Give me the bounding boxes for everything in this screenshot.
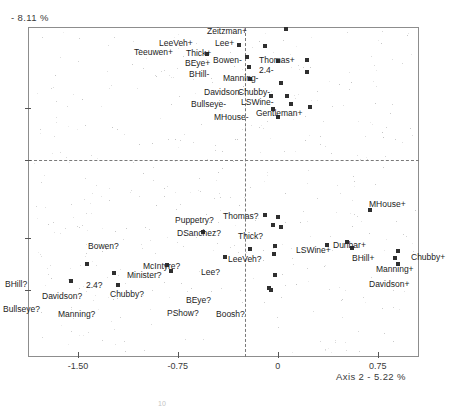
data-point-label: Davidson+ [369,280,409,289]
data-point-label: Puppetry? [175,216,214,225]
data-point-label: LSWine- [241,98,274,107]
data-point-label: 2.4? [86,281,103,290]
data-point-label: LeeVeh? [228,255,262,264]
data-point-label: Minister? [127,271,161,280]
data-point-label: Manning? [58,310,95,319]
data-point-label: Boosh? [216,310,245,319]
data-point-label: Lee+ [215,39,234,48]
data-point-label: Bowen? [88,242,119,251]
data-point-label: PShow? [167,309,199,318]
data-point-label: Manning- [223,74,258,83]
data-labels-layer: Zeitzman+LeeVeh+Lee+Teeuwen+Thick+BEye+T… [0,0,471,416]
data-point-label: Bowen- [213,56,242,65]
data-point-label: Thomas? [223,212,258,221]
data-point-label: Lee? [201,268,220,277]
data-point-label: Thick+ [186,49,211,58]
data-point-label: DSanchez? [177,229,221,238]
data-point-label: Manning+ [376,265,414,274]
data-point-label: Davidson? [42,292,82,301]
data-point-label: Bullseye? [3,305,40,314]
data-point-label: Teeuwen+ [134,48,173,57]
data-point-label: BHill+ [352,254,374,263]
scatter-plot-figure: - 8.11 % Axis 2 - 5.22 % -1.50-0.7500.75… [0,0,471,416]
data-point-label: LSWine+ [296,246,331,255]
data-point-label: Davidson- [204,88,242,97]
data-point-label: BHill? [5,280,27,289]
data-point-label: Thick? [238,232,263,241]
page-artifact: 10 [158,400,166,407]
data-point-label: Bullseye- [191,100,226,109]
data-point-label: BEye? [186,296,211,305]
data-point-label: Chubby- [238,88,270,97]
data-point-label: Zeitzman+ [207,27,247,36]
data-point-label: BEye+ [185,59,210,68]
data-point-label: MHouse+ [369,200,406,209]
data-point-label: Gentleman+ [256,109,303,118]
data-point-label: BHill- [189,70,209,79]
data-point-label: Dunbar+ [333,241,366,250]
data-point-label: 2.4- [259,66,274,75]
data-point-label: MHouse- [214,113,248,122]
data-point-label: Thomas+ [259,56,295,65]
data-point-label: Chubby? [110,290,144,299]
data-point-label: Chubby+ [411,253,445,262]
